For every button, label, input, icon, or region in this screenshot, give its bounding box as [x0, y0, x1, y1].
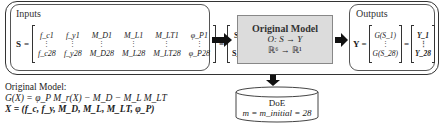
vdots: ⋮ [38, 40, 56, 49]
model-mapping: O: S → Y [238, 34, 332, 45]
vdots: ⋮ [382, 40, 389, 49]
vdots: ⋮ [189, 40, 210, 49]
cell: M_L1 [122, 31, 145, 40]
cell: M_LT1 [153, 31, 180, 40]
model-note: Original Model: G(X) = φ_P M_r(X) − M_D … [5, 82, 167, 115]
cell: Y_28 [415, 49, 431, 58]
doe-formula: m = m_initial = 28 [235, 108, 319, 118]
note-variables: X = (f_c, f_y, M_D, M_L, M_LT, φ_P) [5, 104, 167, 115]
model-dimension: ℝ⁶ → ℝ¹ [238, 45, 332, 56]
vdots: ⋮ [90, 40, 114, 49]
doe-label: DoE m = m_initial = 28 [235, 98, 319, 118]
g-vector: G(S_1) ⋮ G(S_28) [369, 25, 402, 63]
inputs-box: Inputs S = f_c1 f_y1 M_D1 M_L1 M_LT1 φ_P… [10, 4, 210, 71]
s-symbol: S [16, 39, 21, 49]
note-equation: G(X) = φ_P M_r(X) − M_D − M_L M_LT [5, 93, 167, 104]
equals-sign: = [404, 39, 409, 49]
inputs-title: Inputs [16, 8, 41, 19]
matrix-grid: f_c1 f_y1 M_D1 M_L1 M_LT1 φ_P1 ⋮ ⋮ ⋮ ⋮ ⋮… [35, 31, 213, 58]
arrow-right-icon [212, 33, 236, 47]
outputs-title: Outputs [356, 8, 388, 19]
vector-col: Y_1 ⋮ Y_28 [414, 31, 432, 58]
cell: φ_P28 [189, 49, 210, 58]
right-bracket [399, 25, 402, 63]
equals-sign: = [362, 39, 367, 49]
cell: Y_1 [417, 31, 429, 40]
right-bracket [432, 25, 435, 63]
equals-sign: = [24, 39, 29, 49]
cell: f_y28 [64, 49, 82, 58]
outputs-equation: Y = G(S_1) ⋮ G(S_28) = Y_1 ⋮ Y_28 [353, 25, 435, 63]
y-symbol: Y [353, 39, 360, 49]
cell: M_L28 [122, 49, 145, 58]
doe-title: DoE [235, 98, 319, 108]
vdots: ⋮ [122, 40, 145, 49]
cell: M_D28 [90, 49, 114, 58]
cell: M_LT28 [153, 49, 180, 58]
cell: M_D1 [90, 31, 114, 40]
note-title: Original Model: [5, 82, 167, 93]
cell: G(S_1) [374, 31, 396, 40]
outputs-box: Outputs Y = G(S_1) ⋮ G(S_28) = Y_1 ⋮ Y_2… [349, 4, 435, 71]
vdots: ⋮ [420, 40, 427, 49]
vdots: ⋮ [153, 40, 180, 49]
model-title: Original Model [238, 23, 332, 34]
input-matrix: f_c1 f_y1 M_D1 M_L1 M_LT1 φ_P1 ⋮ ⋮ ⋮ ⋮ ⋮… [32, 25, 216, 63]
cell: f_y1 [64, 31, 82, 40]
y-vector: Y_1 ⋮ Y_28 [411, 25, 435, 63]
cell: G(S_28) [373, 49, 398, 58]
vector-col: G(S_1) ⋮ G(S_28) [372, 31, 399, 58]
cell: f_c1 [38, 31, 56, 40]
original-model-box: Original Model O: S → Y ℝ⁶ → ℝ¹ [237, 15, 333, 64]
cell: φ_P1 [189, 31, 210, 40]
vdots: ⋮ [64, 40, 82, 49]
cell: f_c28 [38, 49, 56, 58]
